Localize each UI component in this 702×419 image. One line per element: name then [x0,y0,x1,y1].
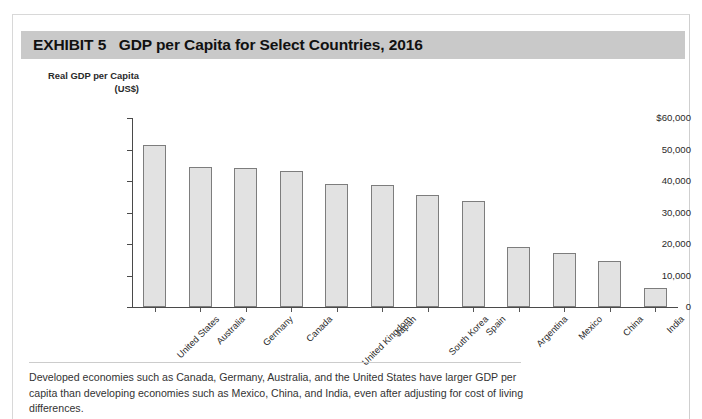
x-axis-tick-label: United States [175,314,221,360]
y-axis-line [132,118,133,308]
bar [280,171,303,307]
y-axis-tick-label: 10,000 [579,270,691,281]
bar [553,253,576,307]
x-axis-tick-mark [655,308,656,312]
y-axis-tick-mark [127,307,132,308]
y-axis-tick-label: $60,000 [579,112,691,123]
x-axis-tick-mark [610,308,611,312]
x-axis-tick-mark [519,308,520,312]
y-axis-tick-label: 40,000 [579,175,691,186]
x-axis-tick-label: Argentina [534,314,569,349]
bar [416,195,439,307]
y-axis-tick-mark [127,118,132,119]
x-axis-tick-label: Spain [484,314,508,338]
exhibit-title: EXHIBIT 5 GDP per Capita for Select Coun… [21,36,423,54]
x-axis-tick-mark [337,308,338,312]
y-axis-tick-mark [127,276,132,277]
x-axis-tick-label: Germany [261,314,295,348]
x-axis-tick-mark [473,308,474,312]
bar [189,167,212,307]
bar [371,185,394,307]
x-axis-tick-mark [155,308,156,312]
bar [462,201,485,307]
x-axis-tick-mark [200,308,201,312]
y-axis-tick-mark [127,181,132,182]
x-axis-tick-label: India [665,314,686,335]
x-axis-tick-label: China [621,314,645,338]
y-axis-tick-label: 30,000 [579,207,691,218]
x-axis-tick-mark [382,308,383,312]
bar [143,145,166,307]
y-axis-tick-label: 0 [579,301,691,312]
bar [325,184,348,307]
y-axis-title-line-2: (US$) [13,83,139,96]
x-axis-tick-mark [246,308,247,312]
chart-container: Real GDP per Capita (US$) $60,00050,0004… [13,59,691,359]
y-axis-tick-mark [127,150,132,151]
exhibit-banner: EXHIBIT 5 GDP per Capita for Select Coun… [21,31,685,59]
x-axis-tick-mark [291,308,292,312]
x-axis-tick-mark [428,308,429,312]
bar [644,288,667,307]
x-axis-tick-label: Mexico [577,314,605,342]
bar [234,168,257,307]
exhibit-caption: Developed economies such as Canada, Germ… [29,370,525,417]
y-axis-tick-label: 50,000 [579,144,691,155]
caption-divider [29,362,521,363]
y-axis-tick-mark [127,244,132,245]
y-axis-title-line-1: Real GDP per Capita [13,70,139,83]
x-axis-tick-label: Japan [394,314,419,339]
y-axis-tick-mark [127,213,132,214]
exhibit-page: EXHIBIT 5 GDP per Capita for Select Coun… [12,14,690,419]
bar [507,247,530,307]
y-axis-tick-label: 20,000 [579,238,691,249]
x-axis-tick-mark [564,308,565,312]
bar [598,261,621,307]
x-axis-tick-label: South Korea [447,314,490,357]
x-axis-tick-label: Canada [305,314,335,344]
y-axis-title: Real GDP per Capita (US$) [13,70,139,95]
